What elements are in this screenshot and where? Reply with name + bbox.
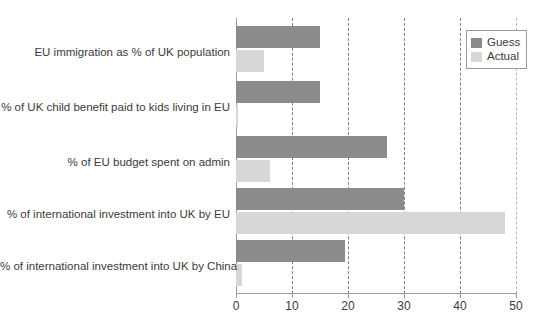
legend-item-actual: Actual [471, 50, 520, 63]
category-label-3: % of international investment into UK by… [0, 208, 230, 220]
x-tick-mark-10 [292, 293, 293, 298]
bar-actual-0 [236, 50, 264, 72]
legend-swatch-actual [471, 52, 482, 62]
x-tick-label-50: 50 [509, 299, 522, 313]
x-tick-label-20: 20 [341, 299, 354, 313]
x-tick-label-30: 30 [397, 299, 410, 313]
gridline-30 [404, 18, 405, 294]
legend-swatch-guess [471, 38, 482, 48]
bar-actual-3 [236, 212, 505, 234]
bar-guess-3 [236, 188, 404, 210]
bar-actual-1 [236, 105, 238, 127]
x-axis-line [236, 293, 517, 294]
legend-label-actual: Actual [487, 50, 519, 63]
category-label-0: EU immigration as % of UK population [0, 46, 230, 58]
bar-chart: 0 10 20 30 40 50 EU immigration as % of … [0, 0, 544, 327]
x-tick-mark-40 [460, 293, 461, 298]
bar-actual-2 [236, 160, 270, 182]
legend-item-guess: Guess [471, 36, 520, 49]
bar-guess-1 [236, 81, 320, 103]
x-tick-mark-30 [404, 293, 405, 298]
x-tick-label-40: 40 [453, 299, 466, 313]
x-tick-label-10: 10 [285, 299, 298, 313]
category-label-4: % of international investment into UK by… [0, 260, 230, 272]
x-tick-mark-0 [236, 293, 237, 298]
gridline-40 [460, 18, 461, 294]
bar-guess-0 [236, 26, 320, 48]
bar-guess-4 [236, 240, 345, 262]
category-label-1: % of UK child benefit paid to kids livin… [0, 101, 230, 113]
legend-label-guess: Guess [487, 36, 520, 49]
x-tick-mark-50 [516, 293, 517, 298]
bar-guess-2 [236, 136, 387, 158]
x-tick-label-0: 0 [233, 299, 240, 313]
x-tick-mark-20 [348, 293, 349, 298]
chart-legend: Guess Actual [466, 30, 527, 69]
category-label-2: % of EU budget spent on admin [0, 156, 230, 168]
